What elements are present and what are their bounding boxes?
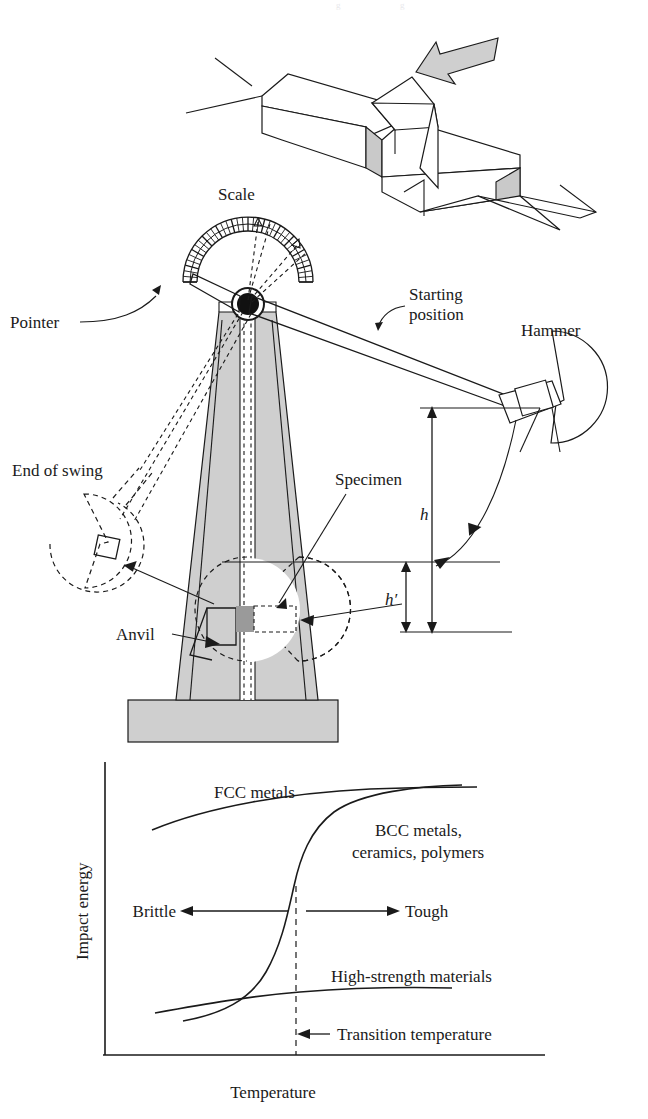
chart-y-axis-label: Impact energy bbox=[73, 862, 92, 960]
transition-temperature-label: Transition temperature bbox=[337, 1025, 492, 1044]
series-label-bcc-line1: BCC metals, bbox=[375, 821, 462, 840]
series-label-fcc: FCC metals bbox=[214, 783, 295, 802]
scale-inner-arc bbox=[197, 231, 299, 282]
starting-position-label-line2: position bbox=[409, 305, 464, 324]
page-bleed-artifact: g g bbox=[336, 0, 405, 10]
series-label-high-strength: High-strength materials bbox=[331, 967, 492, 986]
end-swing-arm-b bbox=[126, 473, 152, 505]
hammer-label: Hammer bbox=[521, 321, 581, 340]
svg-text:g: g bbox=[400, 0, 405, 10]
specimen-outline-dashed bbox=[254, 606, 296, 632]
curve-high-strength bbox=[155, 988, 452, 1013]
pendulum-arm-starting bbox=[249, 296, 508, 406]
hprime-arrowhead-bottom bbox=[401, 622, 411, 633]
swing-trajectory-curve bbox=[436, 420, 516, 566]
swing-trajectory-arrow-end bbox=[434, 557, 450, 569]
scale-tick-marks bbox=[183, 217, 313, 282]
starting-position-arrowhead bbox=[375, 322, 383, 331]
pointer-label: Pointer bbox=[10, 313, 59, 332]
scale-protractor bbox=[183, 217, 313, 282]
chart-x-axis-label: Temperature bbox=[230, 1083, 316, 1102]
end-swing-striker-block bbox=[94, 535, 120, 559]
specimen-bar-in-anvil bbox=[236, 606, 254, 632]
end-swing-leader-arrowhead bbox=[123, 561, 139, 574]
figure-canvas: g g bbox=[0, 0, 648, 1119]
hammer-disc-end-of-swing bbox=[50, 468, 152, 592]
impact-load-arrow bbox=[416, 38, 498, 84]
brittle-label: Brittle bbox=[133, 902, 176, 921]
tough-label: Tough bbox=[405, 902, 449, 921]
hprime-label: h′ bbox=[385, 590, 398, 609]
scale-mid-arc bbox=[190, 224, 306, 282]
hprime-arrowhead-top bbox=[401, 561, 411, 572]
anvil-label: Anvil bbox=[116, 625, 155, 644]
hammer-disc-body bbox=[551, 331, 608, 443]
end-of-swing-label: End of swing bbox=[12, 461, 103, 480]
rail-end-bracket bbox=[560, 185, 596, 218]
series-label-bcc-line2: ceramics, polymers bbox=[352, 843, 484, 862]
starting-position-label-line1: Starting bbox=[409, 285, 463, 304]
impact-energy-chart: Impact energy Temperature FCC metals BCC… bbox=[73, 762, 545, 1102]
end-swing-disc-lower bbox=[50, 503, 144, 592]
starting-position-leader bbox=[378, 306, 405, 327]
specimen-label: Specimen bbox=[335, 470, 403, 489]
h-label: h bbox=[420, 505, 429, 524]
svg-text:g: g bbox=[336, 0, 341, 10]
pointer-leader bbox=[80, 296, 156, 322]
end-swing-disc-upper bbox=[84, 494, 132, 588]
rail-line-upper-left bbox=[215, 58, 252, 86]
specimen-notch-face-left bbox=[366, 127, 382, 177]
transition-arrowhead bbox=[297, 1029, 310, 1039]
figure-root: g g bbox=[0, 0, 648, 1119]
scale-trace-line-c bbox=[250, 243, 299, 300]
machine-base-slab bbox=[128, 700, 338, 742]
brittle-arrowhead bbox=[180, 906, 193, 916]
hammer-disc-start bbox=[499, 331, 608, 452]
scale-label: Scale bbox=[218, 185, 255, 204]
tough-arrowhead bbox=[387, 906, 400, 916]
rail-line-lower-left bbox=[186, 96, 262, 113]
charpy-machine-drawing: Scale bbox=[10, 185, 608, 742]
pointer-arrowhead bbox=[152, 285, 161, 295]
hammer-striker-block bbox=[515, 380, 553, 416]
